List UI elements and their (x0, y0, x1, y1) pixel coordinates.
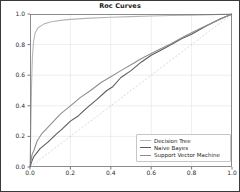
chart-title: Roc Curves (1, 2, 239, 10)
legend-label: Support Vector Machine (154, 152, 220, 158)
legend-line-swatch (140, 147, 151, 148)
legend-line-swatch (140, 140, 151, 141)
legend-label: Naive Bayes (154, 145, 188, 151)
legend-item-naive-bayes: Naive Bayes (140, 144, 227, 151)
y-tick-label: 1.0 (3, 11, 25, 17)
y-tick-label: 0.0 (3, 164, 25, 170)
legend-line-swatch (140, 155, 151, 156)
legend-item-decision-tree: Decision Tree (140, 137, 227, 144)
y-tick-label: 0.2 (3, 133, 25, 139)
x-tick-label: 0.6 (141, 170, 161, 176)
legend-item-support-vector-machine: Support Vector Machine (140, 152, 227, 159)
x-tick-label: 0.8 (182, 170, 202, 176)
x-tick-label: 1.0 (222, 170, 240, 176)
legend: Decision TreeNaive BayesSupport Vector M… (136, 134, 231, 162)
x-tick-label: 0.2 (60, 170, 80, 176)
roc-chart-figure: Roc Curves Decision TreeNaive BayesSuppo… (0, 0, 240, 192)
x-tick-label: 0.4 (101, 170, 121, 176)
y-tick-label: 0.4 (3, 103, 25, 109)
legend-label: Decision Tree (154, 138, 191, 144)
y-tick-label: 0.8 (3, 42, 25, 48)
x-tick-label: 0.0 (20, 170, 40, 176)
y-tick-label: 0.6 (3, 72, 25, 78)
